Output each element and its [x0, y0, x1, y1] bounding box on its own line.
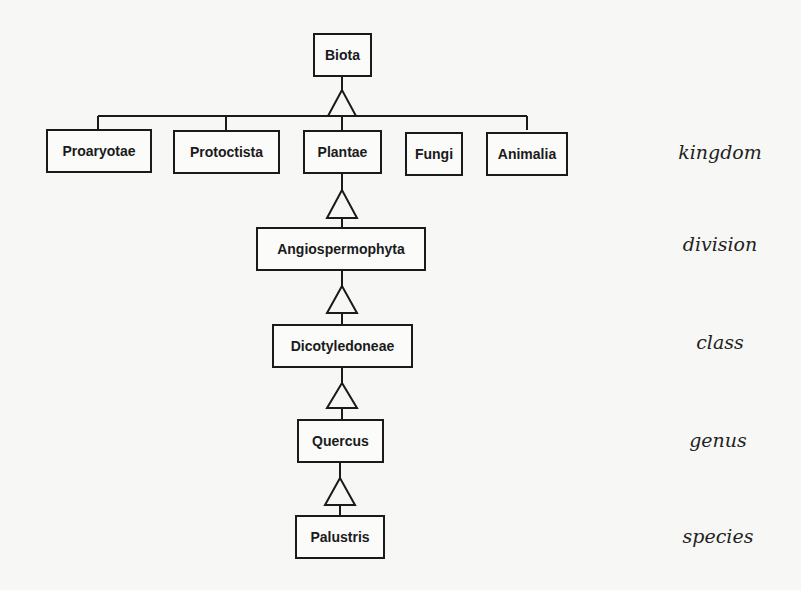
- node-quercus: Quercus: [297, 419, 384, 463]
- node-fungi: Fungi: [405, 132, 463, 176]
- node-protoctista: Protoctista: [173, 130, 280, 174]
- node-palustris: Palustris: [295, 515, 385, 559]
- node-label: Animalia: [498, 146, 556, 162]
- node-label: Angiospermophyta: [277, 241, 405, 257]
- node-biota: Biota: [313, 33, 372, 77]
- node-label: Quercus: [312, 433, 369, 449]
- node-label: Biota: [325, 47, 360, 63]
- rank-label-species: species: [648, 525, 788, 547]
- connector-lines: [0, 0, 801, 590]
- node-label: Protoctista: [190, 144, 263, 160]
- node-label: Palustris: [310, 529, 369, 545]
- node-label: Proaryotae: [62, 143, 135, 159]
- node-plantae: Plantae: [303, 130, 382, 174]
- generalization-triangle-icon: [325, 478, 355, 505]
- generalization-triangle-icon: [327, 286, 357, 313]
- rank-label-division: division: [650, 233, 790, 255]
- node-proaryotae: Proaryotae: [46, 129, 152, 173]
- node-angiospermophyta: Angiospermophyta: [256, 227, 426, 271]
- rank-label-class: class: [650, 331, 790, 353]
- node-dicotyledoneae: Dicotyledoneae: [272, 324, 413, 368]
- generalization-triangle-icon: [328, 90, 356, 116]
- rank-label-kingdom: kingdom: [650, 141, 790, 163]
- generalization-triangle-icon: [327, 383, 357, 408]
- generalization-triangle-icon: [327, 190, 357, 218]
- node-animalia: Animalia: [486, 132, 568, 176]
- node-label: Fungi: [415, 146, 453, 162]
- rank-label-genus: genus: [648, 429, 788, 451]
- node-label: Dicotyledoneae: [291, 338, 394, 354]
- node-label: Plantae: [318, 144, 368, 160]
